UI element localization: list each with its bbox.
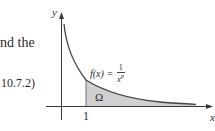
region-label-omega: Ω (95, 92, 103, 103)
x-tick-label-1: 1 (83, 110, 89, 122)
y-axis-arrow-icon (59, 12, 64, 19)
function-denominator-wrap: xp (117, 73, 124, 84)
function-fraction: 1 xp (117, 64, 125, 84)
curve-f-x (64, 24, 196, 104)
y-axis-label: y (52, 7, 57, 18)
x-axis-label: x (210, 112, 215, 123)
function-exponent: p (121, 73, 124, 79)
function-label: f(x) = 1 xp (90, 64, 125, 84)
function-label-lhs: f(x) = (90, 68, 116, 79)
x-axis-arrow-icon (206, 104, 213, 109)
function-numerator: 1 (117, 64, 125, 73)
